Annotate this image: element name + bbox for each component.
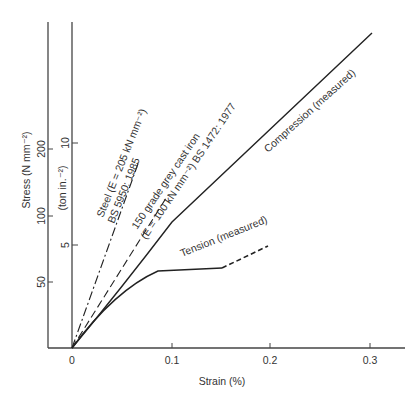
iron-label-line1: 150 grade grey cast iron — [129, 130, 202, 231]
y-tick-label-50: 50 — [35, 276, 47, 288]
y-tick-label-200: 200 — [35, 140, 47, 158]
x-tick-label-0.1: 0.1 — [165, 354, 180, 366]
y-tick-label-100: 100 — [35, 207, 47, 225]
y-axis-title-secondary: (ton in.⁻²) — [56, 165, 68, 210]
x-tick-label-0.3: 0.3 — [363, 354, 378, 366]
compression-label: Compression (measured) — [261, 66, 357, 154]
y-axis-title-primary: Stress (N mm⁻²) — [20, 131, 32, 208]
tension-curve-dashed — [222, 246, 268, 268]
stress-strain-chart: 0 0.1 0.2 0.3 200 100 50 10 5 Strain (%)… — [0, 0, 405, 395]
tension-curve-solid — [72, 268, 222, 348]
y2-tick-label-5: 5 — [59, 242, 71, 248]
x-axis-title: Strain (%) — [199, 375, 246, 387]
y2-tick-label-10: 10 — [59, 137, 71, 149]
x-tick-label-0: 0 — [69, 354, 75, 366]
iron-label-line2: (E = 100 kN mm⁻²) BS 1472: 1977 — [138, 100, 238, 241]
x-tick-label-0.2: 0.2 — [263, 354, 278, 366]
